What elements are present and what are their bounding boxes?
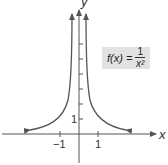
y-axis-label: y bbox=[81, 0, 88, 8]
formula-lhs: f(x) = bbox=[107, 52, 132, 64]
formula-numerator: 1 bbox=[135, 47, 145, 58]
formula-box: f(x) = 1 x² bbox=[102, 47, 150, 69]
curve-right bbox=[86, 14, 126, 130]
x-tick-1: 1 bbox=[95, 139, 101, 150]
formula-denominator: x² bbox=[136, 58, 144, 69]
curve-left bbox=[30, 14, 72, 130]
x-axis-label: x bbox=[159, 128, 166, 141]
formula-fraction: 1 x² bbox=[135, 47, 145, 69]
y-tick-1: 1 bbox=[71, 114, 77, 125]
graph bbox=[0, 0, 168, 165]
x-tick-neg1: −1 bbox=[53, 139, 66, 150]
